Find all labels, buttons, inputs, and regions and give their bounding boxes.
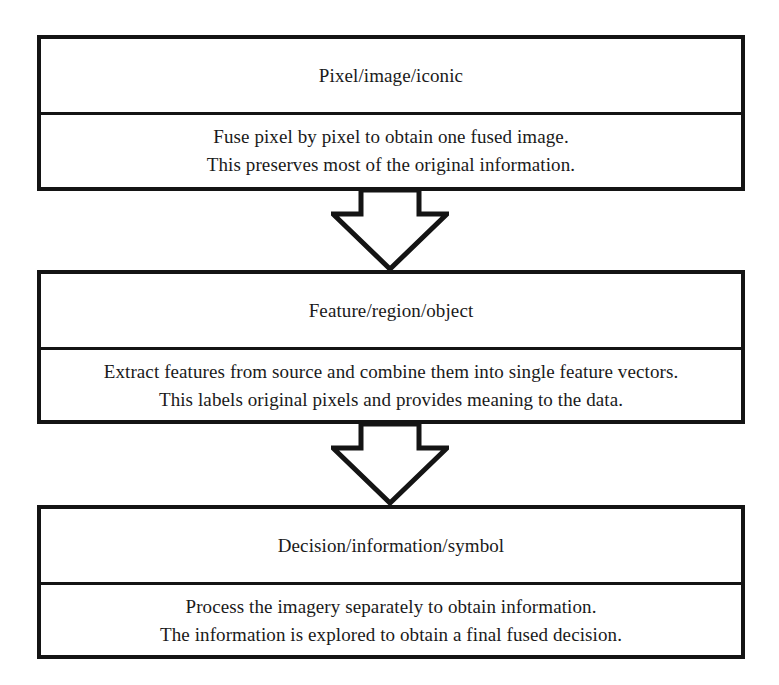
level-body-line: This preserves most of the original info…: [207, 151, 575, 179]
level-body-cell-decision: Process the imagery separately to obtain…: [41, 585, 741, 656]
level-title-cell-feature: Feature/region/object: [41, 274, 741, 350]
level-body-line: This labels original pixels and provides…: [159, 386, 623, 414]
arrow-down-block-icon: [331, 188, 449, 272]
level-body-line: Process the imagery separately to obtain…: [185, 593, 596, 621]
level-title-feature: Feature/region/object: [309, 299, 474, 323]
level-title-cell-decision: Decision/information/symbol: [41, 509, 741, 585]
level-title-decision: Decision/information/symbol: [278, 534, 504, 558]
level-box-feature: Feature/region/object Extract features f…: [37, 270, 745, 424]
level-body-line: Fuse pixel by pixel to obtain one fused …: [213, 123, 569, 151]
arrow-down-block-icon: [331, 422, 449, 506]
level-title-pixel: Pixel/image/iconic: [319, 64, 463, 88]
level-body-line: The information is explored to obtain a …: [160, 621, 622, 649]
level-title-cell-pixel: Pixel/image/iconic: [41, 39, 741, 115]
level-box-decision: Decision/information/symbol Process the …: [37, 505, 745, 659]
level-box-pixel: Pixel/image/iconic Fuse pixel by pixel t…: [37, 35, 745, 191]
level-body-cell-pixel: Fuse pixel by pixel to obtain one fused …: [41, 115, 741, 186]
level-body-line: Extract features from source and combine…: [104, 358, 679, 386]
level-body-cell-feature: Extract features from source and combine…: [41, 350, 741, 421]
diagram-canvas: Pixel/image/iconic Fuse pixel by pixel t…: [0, 0, 779, 685]
